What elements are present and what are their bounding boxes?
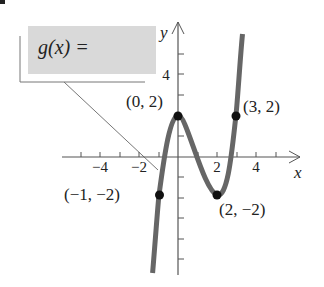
graph: y x −4 −2 2 4 4 (0, 2) (3, 2) (−1, −2) (… — [0, 0, 324, 287]
y-tick-label: 4 — [162, 67, 170, 83]
formula-bracket — [20, 36, 145, 82]
y-axis-label: y — [158, 23, 168, 42]
x-tick-label: −2 — [131, 159, 147, 175]
point-neg1-neg2 — [155, 191, 164, 200]
point-label: (3, 2) — [243, 97, 280, 116]
point-label: (2, −2) — [219, 200, 265, 219]
x-tick-label: 2 — [213, 159, 221, 175]
x-axis-label: x — [293, 163, 302, 182]
point-label: (0, 2) — [126, 92, 163, 111]
x-tick-label: 4 — [252, 159, 260, 175]
point-3-2 — [232, 112, 241, 121]
point-2-neg2 — [213, 191, 222, 200]
x-tick-label: −4 — [92, 159, 108, 175]
point-label: (−1, −2) — [64, 185, 120, 204]
point-0-2 — [174, 112, 183, 121]
